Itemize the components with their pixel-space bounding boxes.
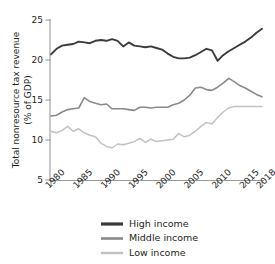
x-axis-ticks: 198019851990199520002005201020152018 bbox=[43, 167, 275, 190]
data-series-group bbox=[51, 29, 262, 148]
y-tick-label: 5 bbox=[37, 175, 43, 185]
x-tick-label: 2005 bbox=[182, 167, 205, 190]
legend-label-middle-income: Middle income bbox=[129, 232, 198, 243]
x-tick-label: 1995 bbox=[127, 167, 150, 190]
y-tick-label: 15 bbox=[32, 95, 43, 105]
x-tick-label: 1985 bbox=[71, 167, 94, 190]
chart-legend: High incomeMiddle incomeLow income bbox=[101, 218, 198, 258]
y-axis-ticks: 510152025 bbox=[32, 15, 51, 185]
legend-label-low-income: Low income bbox=[129, 247, 186, 258]
legend-label-high-income: High income bbox=[129, 218, 189, 229]
chart-container: Total nonresource tax revenue (% of GDP)… bbox=[0, 0, 275, 264]
x-tick-label: 1980 bbox=[43, 167, 66, 190]
series-line-low-income bbox=[51, 106, 262, 148]
x-tick-label: 2018 bbox=[254, 167, 275, 190]
series-line-high-income bbox=[51, 29, 262, 61]
x-tick-label: 1990 bbox=[99, 167, 122, 190]
y-tick-label: 25 bbox=[32, 15, 43, 25]
x-tick-label: 2000 bbox=[154, 167, 177, 190]
x-tick-label: 2010 bbox=[210, 167, 233, 190]
y-tick-label: 10 bbox=[32, 135, 44, 145]
y-tick-label: 20 bbox=[32, 55, 44, 65]
y-axis-title: Total nonresource tax revenue (% of GDP) bbox=[11, 31, 33, 169]
line-chart: Total nonresource tax revenue (% of GDP)… bbox=[0, 0, 275, 264]
series-line-middle-income bbox=[51, 78, 262, 116]
y-axis-title-line1: Total nonresource tax revenue bbox=[11, 31, 21, 169]
